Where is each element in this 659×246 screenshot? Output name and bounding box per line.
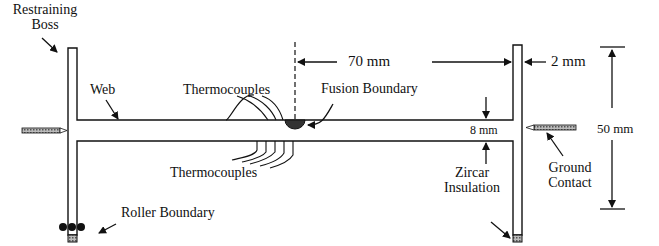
thermocouples-bottom-label: Thermocouples <box>170 165 257 180</box>
label-line: Zircar <box>432 165 512 180</box>
label-line: Contact <box>535 175 605 190</box>
web-label: Web <box>90 82 115 97</box>
roller-layer <box>0 0 659 246</box>
thermocouples-top-label: Thermocouples <box>183 82 270 97</box>
label-line: Insulation <box>432 180 512 195</box>
dimension-2mm: 2 mm <box>551 54 586 69</box>
label-line: Ground <box>535 160 605 175</box>
fusion-boundary-label: Fusion Boundary <box>321 81 418 96</box>
zircar-insulation-label: Zircar Insulation <box>432 165 512 195</box>
dimension-70mm: 70 mm <box>348 54 390 69</box>
restraining-boss-label: Restraining Boss <box>5 2 85 32</box>
dimension-8mm: 8 mm <box>470 123 498 138</box>
roller-boundary-label: Roller Boundary <box>121 205 215 220</box>
label-line: Boss <box>5 17 85 32</box>
label-line: Restraining <box>5 2 85 17</box>
ground-contact-label: Ground Contact <box>535 160 605 190</box>
dimension-50mm: 50 mm <box>597 121 633 136</box>
